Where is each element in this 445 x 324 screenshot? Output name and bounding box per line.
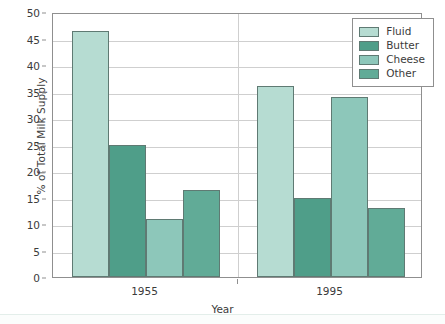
- y-tick-label: 50: [27, 7, 40, 19]
- legend-item-butter: Butter: [359, 39, 425, 52]
- y-tick-label: 0: [33, 272, 40, 284]
- y-tick-mark: [42, 92, 46, 93]
- legend-label: Cheese: [386, 54, 425, 65]
- y-tick-mark: [42, 172, 46, 173]
- legend-item-cheese: Cheese: [359, 53, 425, 66]
- y-tick-label: 35: [27, 87, 40, 99]
- y-tick-mark: [42, 119, 46, 120]
- y-tick-mark: [42, 39, 46, 40]
- y-tick-label: 25: [27, 140, 40, 152]
- y-tick-label: 30: [27, 113, 40, 125]
- legend-swatch-fluid: [359, 27, 379, 37]
- bar-cheese-1955: [146, 219, 183, 277]
- legend-label: Other: [386, 68, 416, 79]
- y-axis-ticks: 05101520253035404550: [0, 13, 46, 278]
- page-edge: [0, 314, 445, 324]
- x-group-label-1955: 1955: [131, 285, 158, 297]
- bar-fluid-1955: [72, 31, 109, 277]
- y-tick-mark: [42, 66, 46, 67]
- y-tick-mark: [42, 13, 46, 14]
- bar-chart: % of Total Milk Supply 05101520253035404…: [0, 0, 445, 324]
- legend-swatch-other: [359, 69, 379, 79]
- y-tick-mark: [42, 278, 46, 279]
- x-tick-mark: [237, 279, 238, 284]
- y-tick-mark: [42, 225, 46, 226]
- legend-swatch-cheese: [359, 55, 379, 65]
- y-tick-mark: [42, 251, 46, 252]
- legend-swatch-butter: [359, 41, 379, 51]
- y-tick-label: 20: [27, 166, 40, 178]
- chart-legend: FluidButterCheeseOther: [352, 18, 434, 87]
- bar-butter-1995: [294, 198, 331, 278]
- y-tick-mark: [42, 198, 46, 199]
- y-tick-label: 10: [27, 219, 40, 231]
- bar-other-1995: [368, 208, 405, 277]
- x-group-label-1995: 1995: [316, 285, 343, 297]
- bar-other-1955: [183, 190, 220, 277]
- legend-item-other: Other: [359, 67, 425, 80]
- legend-item-fluid: Fluid: [359, 25, 425, 38]
- y-tick-label: 5: [33, 246, 40, 258]
- bar-fluid-1995: [257, 86, 294, 277]
- bar-cheese-1995: [331, 97, 368, 277]
- y-tick-label: 15: [27, 193, 40, 205]
- y-tick-mark: [42, 145, 46, 146]
- y-tick-label: 45: [27, 34, 40, 46]
- y-tick-label: 40: [27, 60, 40, 72]
- legend-label: Fluid: [386, 26, 411, 37]
- bar-butter-1955: [109, 145, 146, 278]
- legend-label: Butter: [386, 40, 419, 51]
